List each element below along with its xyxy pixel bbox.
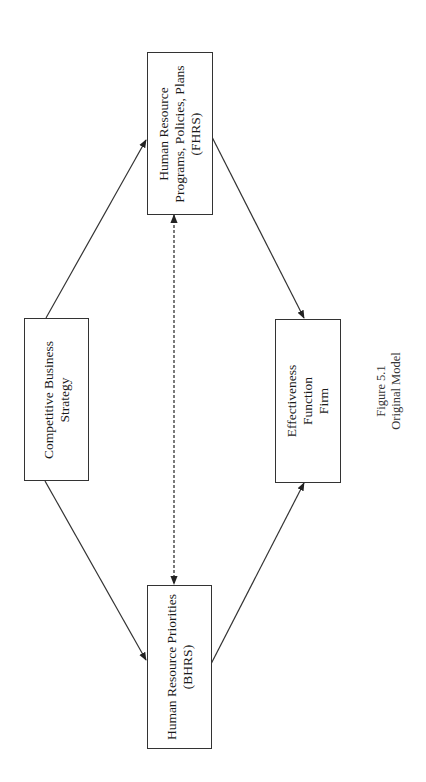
arrow-bhrs-to-effectiveness [211,483,304,664]
caption-figure-number: Figure 5.1 [374,352,389,429]
node-text-line: Function [300,365,316,437]
figure-caption: Figure 5.1 Original Model [374,352,404,429]
node-text-line: Programs, Policies, Plans [172,65,188,202]
node-effectiveness: Effectiveness Function Firm [275,319,341,483]
arrow-strategy-to-bhrs [45,481,146,660]
node-text-line: (FHRS) [188,65,204,202]
caption-title: Original Model [389,352,404,429]
node-text-line: Strategy [57,340,73,458]
node-competitive-business-strategy: Competitive Business Strategy [24,318,89,481]
node-text-line: Competitive Business [41,340,57,458]
node-text-line: Human Resource [156,65,172,202]
node-text-line: (BHRS) [180,594,196,740]
arrow-strategy-to-fhrs [46,140,146,318]
arrow-fhrs-to-effectiveness [212,137,304,318]
node-hr-programs-fhrs: Human Resource Programs, Policies, Plans… [147,52,213,215]
node-text-line: Effectiveness [284,365,300,437]
node-text-line: Human Resource Priorities [164,594,180,740]
node-hr-priorities-bhrs: Human Resource Priorities (BHRS) [147,585,212,749]
node-text-line: Firm [316,365,332,437]
